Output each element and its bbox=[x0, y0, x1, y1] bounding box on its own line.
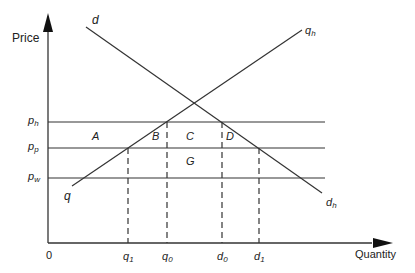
diagram-canvas: Price Quantity 0 ph pp pw q1 q0 d0 d1 d … bbox=[0, 0, 415, 273]
qty-label-d1-sub: 1 bbox=[260, 255, 264, 264]
supply-start-label: q bbox=[64, 190, 71, 202]
x-axis-label: Quantity bbox=[355, 249, 396, 260]
qty-label-d0-sub: 0 bbox=[223, 255, 227, 264]
price-label-pp: pp bbox=[28, 141, 39, 152]
qty-label-q1-sub: 1 bbox=[129, 255, 133, 264]
origin-label: 0 bbox=[46, 250, 52, 261]
region-label-a: A bbox=[92, 131, 99, 142]
region-label-c: C bbox=[186, 131, 194, 142]
region-label-g: G bbox=[186, 156, 195, 167]
y-axis-arrow-icon bbox=[43, 13, 53, 32]
region-label-b: B bbox=[152, 131, 159, 142]
supply-end-label-sub: h bbox=[311, 29, 315, 38]
diagram-lines bbox=[0, 0, 415, 273]
price-label-pw: pw bbox=[28, 171, 40, 182]
qty-label-q1: q1 bbox=[123, 251, 134, 262]
region-label-d: D bbox=[226, 131, 234, 142]
x-axis-arrow-icon bbox=[373, 238, 393, 248]
demand-curve bbox=[86, 27, 322, 193]
price-label-pp-sub: p bbox=[34, 145, 38, 154]
price-label-pw-sub: w bbox=[34, 175, 40, 184]
qty-label-q0-sub: 0 bbox=[168, 255, 172, 264]
y-axis-label: Price bbox=[12, 32, 39, 44]
qty-label-d1: d1 bbox=[254, 251, 265, 262]
supply-end-label: qh bbox=[305, 25, 316, 36]
qty-label-q0: q0 bbox=[162, 251, 173, 262]
demand-end-label-sub: h bbox=[332, 201, 336, 210]
price-label-ph-sub: h bbox=[34, 119, 38, 128]
qty-label-d0: d0 bbox=[217, 251, 228, 262]
price-label-ph: ph bbox=[28, 115, 39, 126]
demand-end-label: dh bbox=[326, 197, 337, 208]
demand-start-label: d bbox=[92, 14, 99, 26]
